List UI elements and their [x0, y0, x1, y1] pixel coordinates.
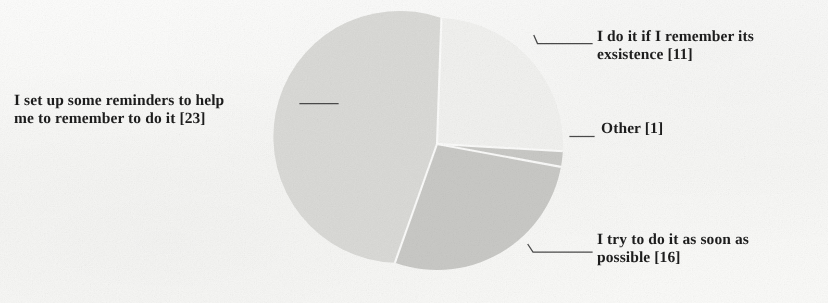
pie-label-asap: I try to do it as soon as possible [16]: [597, 231, 822, 267]
pie-label-remember-existence: I do it if I remember its exsistence [11…: [597, 28, 825, 64]
pie-label-reminders: I set up some reminders to help me to re…: [14, 92, 296, 128]
leader-line-remember-existence: [534, 36, 592, 44]
pie-label-other: Other [1]: [601, 120, 781, 138]
pie-chart-figure: I do it if I remember its exsistence [11…: [0, 0, 828, 303]
leader-line-asap: [528, 245, 592, 253]
pie-slices: [273, 11, 563, 270]
